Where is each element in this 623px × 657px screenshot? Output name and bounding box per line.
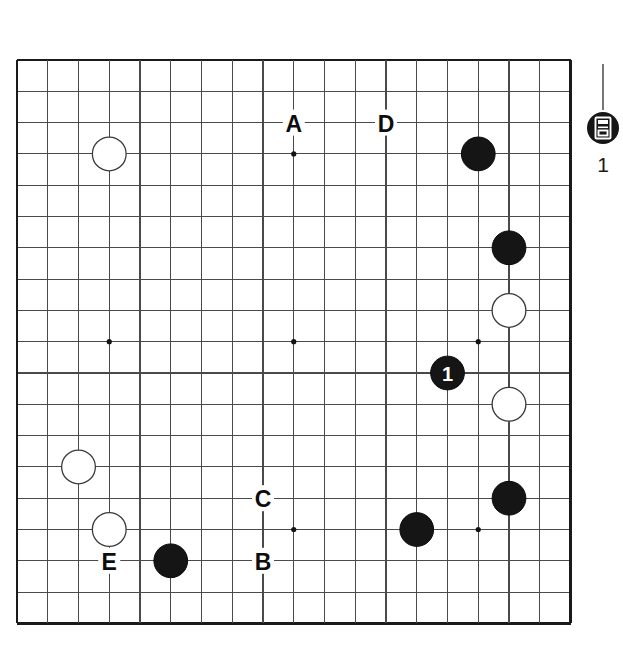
star-point (291, 151, 296, 156)
legend-caption: 1 (597, 153, 609, 176)
black-stone[interactable] (492, 231, 526, 265)
point-label: E (102, 549, 117, 575)
white-stone[interactable] (492, 294, 526, 328)
black-stone[interactable] (461, 137, 495, 171)
star-point (291, 527, 296, 532)
go-board-canvas[interactable]: ADCBE 1 (11, 54, 577, 629)
star-point (476, 339, 481, 344)
black-stone[interactable] (154, 544, 188, 578)
point-label: C (255, 486, 272, 512)
black-stone[interactable] (492, 481, 526, 515)
move-legend: 1 (583, 62, 623, 187)
white-stone[interactable] (92, 137, 126, 171)
go-board[interactable]: ADCBE 1 (11, 54, 577, 629)
white-stone[interactable] (62, 450, 96, 484)
black-stone[interactable] (400, 513, 434, 547)
white-stone[interactable] (492, 387, 526, 421)
point-label: D (378, 111, 395, 137)
white-stone[interactable] (92, 513, 126, 547)
point-label: B (255, 549, 272, 575)
star-point (476, 527, 481, 532)
legend-canvas: 1 (583, 62, 623, 187)
star-point (107, 339, 112, 344)
star-point (291, 339, 296, 344)
stone-move-number: 1 (442, 363, 453, 385)
point-label: A (285, 111, 302, 137)
go-diagram-page: ADCBE 1 1 (0, 0, 623, 657)
